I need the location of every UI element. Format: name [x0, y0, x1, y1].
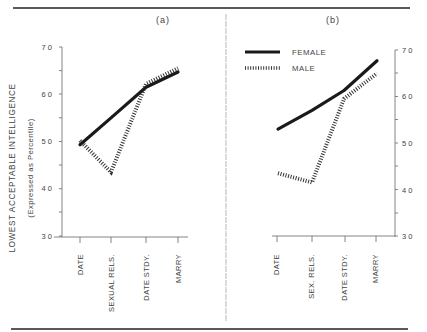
svg-text:4 0: 4 0	[42, 184, 52, 193]
svg-text:DATE: DATE	[272, 254, 281, 275]
panel-a-label: (a)	[156, 15, 170, 25]
panel-a-female-line	[80, 72, 178, 145]
legend: FEMALE MALE	[245, 48, 326, 73]
svg-text:4 0: 4 0	[402, 186, 412, 195]
figure: (a) (b) LOWEST ACCEPTABLE INTELLIGENCE (…	[0, 0, 427, 332]
svg-text:5 0: 5 0	[402, 139, 412, 148]
svg-text:DATE STDY.: DATE STDY.	[142, 254, 151, 301]
y-axis-subtitle: (Expressed as Percentile)	[26, 118, 35, 217]
panel-b-axes	[272, 50, 398, 242]
svg-text:DATE: DATE	[76, 254, 85, 275]
svg-text:SEX. RELS.: SEX. RELS.	[307, 254, 316, 299]
svg-text:3 0: 3 0	[42, 232, 52, 241]
svg-text:6 0: 6 0	[402, 92, 412, 101]
svg-text:5 0: 5 0	[42, 137, 52, 146]
svg-text:DATE STDY.: DATE STDY.	[340, 254, 349, 301]
legend-female-label: FEMALE	[292, 48, 326, 57]
svg-text:3 0: 3 0	[402, 232, 412, 241]
svg-text:MARRY: MARRY	[371, 254, 380, 283]
svg-text:7 0: 7 0	[42, 43, 52, 52]
y-axis-title: LOWEST ACCEPTABLE INTELLIGENCE	[8, 83, 17, 252]
panel-b-male-line	[278, 73, 377, 182]
panel-b-x-tick-labels: DATE SEX. RELS. DATE STDY. MARRY	[272, 254, 380, 301]
panel-b-label: (b)	[326, 15, 340, 25]
legend-male-label: MALE	[292, 64, 315, 73]
panel-a-x-tick-labels: DATE SEXUAL RELS. DATE STDY. MARRY	[76, 254, 183, 312]
panel-a-male-line	[80, 68, 178, 172]
svg-text:MARRY: MARRY	[174, 254, 183, 283]
svg-text:7 0: 7 0	[402, 46, 412, 55]
svg-text:SEXUAL RELS.: SEXUAL RELS.	[107, 254, 116, 312]
panel-b-y-tick-labels: 7 0 6 0 5 0 4 0 3 0	[402, 46, 412, 241]
svg-text:6 0: 6 0	[42, 90, 52, 99]
panel-a-y-tick-labels: 7 0 6 0 5 0 4 0 3 0	[42, 43, 52, 241]
